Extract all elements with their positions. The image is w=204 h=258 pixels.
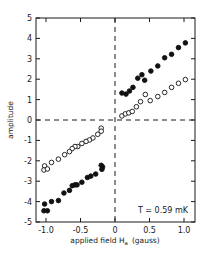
y-tick-label: -1 [24,136,32,145]
filled-data-point [169,52,174,57]
filled-data-point [70,183,75,188]
open-data-point [134,104,139,109]
open-data-point [155,94,160,99]
open-data-point [176,81,181,86]
y-tick-label: -5 [24,218,32,227]
open-data-point [62,152,67,157]
open-data-point [45,167,50,172]
filled-data-point [162,55,167,60]
zero-reference-lines [36,18,195,222]
filled-data-point [176,45,181,50]
filled-data-point [140,72,145,77]
chart: 543210-1-2-3-4-5 -1.0-0.500.51.0 amplitu… [0,0,204,258]
filled-data-point [67,188,72,193]
y-axis-label: amplitude [6,101,15,139]
y-tick-label: 3 [27,55,32,64]
filled-data-point [80,180,85,185]
filled-data-point [142,78,147,83]
filled-data-point [49,199,54,204]
open-data-point [148,98,153,103]
open-data-point [138,99,143,104]
filled-data-point [100,167,105,172]
x-tick-label: 0 [112,226,117,235]
x-axis-label-unit: (gauss) [132,236,160,245]
y-tick-label: 0 [27,116,32,125]
x-tick-label: 1.0 [178,226,191,235]
x-axis-label-subscript: a [125,240,128,246]
y-tick-label: 5 [27,14,32,23]
filled-data-point [183,41,188,46]
y-tick-label: -4 [24,198,32,207]
filled-data-point [135,76,140,81]
open-data-point [162,90,167,95]
filled-data-point [93,172,98,177]
y-tick-label: -3 [24,177,32,186]
open-data-point [130,109,135,114]
filled-data-point [85,175,90,180]
x-tick-label: -1.0 [38,226,54,235]
y-tick-label: 2 [27,75,32,84]
x-tick-label: 0.5 [143,226,156,235]
temperature-annotation: T = 0.59 mK [137,206,189,215]
filled-data-point [149,69,154,74]
y-tick-label: 1 [27,96,32,105]
open-data-point [80,141,85,146]
filled-data-point [131,85,136,90]
filled-data-point [127,89,132,94]
open-data-point [49,160,54,165]
x-axis-label: applied field Ha(gauss) [70,236,159,246]
x-axis-ticks: -1.0-0.500.51.0 [38,18,190,235]
y-tick-label: -2 [24,157,32,166]
filled-data-point [62,191,67,196]
open-data-point [143,92,148,97]
open-data-point [67,149,72,154]
open-data-point [56,157,61,162]
open-data-point [169,85,174,90]
filled-data-point [42,202,47,207]
filled-data-point [155,64,160,69]
open-data-point [183,77,188,82]
y-tick-label: 4 [27,34,32,43]
filled-data-point [45,208,50,213]
filled-data-point [56,198,61,203]
open-data-point [95,132,100,137]
x-axis-label-main: applied field H [70,236,124,245]
x-tick-label: -0.5 [73,226,89,235]
